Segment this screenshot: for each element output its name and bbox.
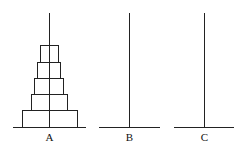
peg-label-c: C [201, 132, 208, 143]
peg-label-b: B [126, 132, 133, 143]
hanoi-diagram [0, 0, 245, 148]
peg-label-a: A [46, 132, 54, 143]
